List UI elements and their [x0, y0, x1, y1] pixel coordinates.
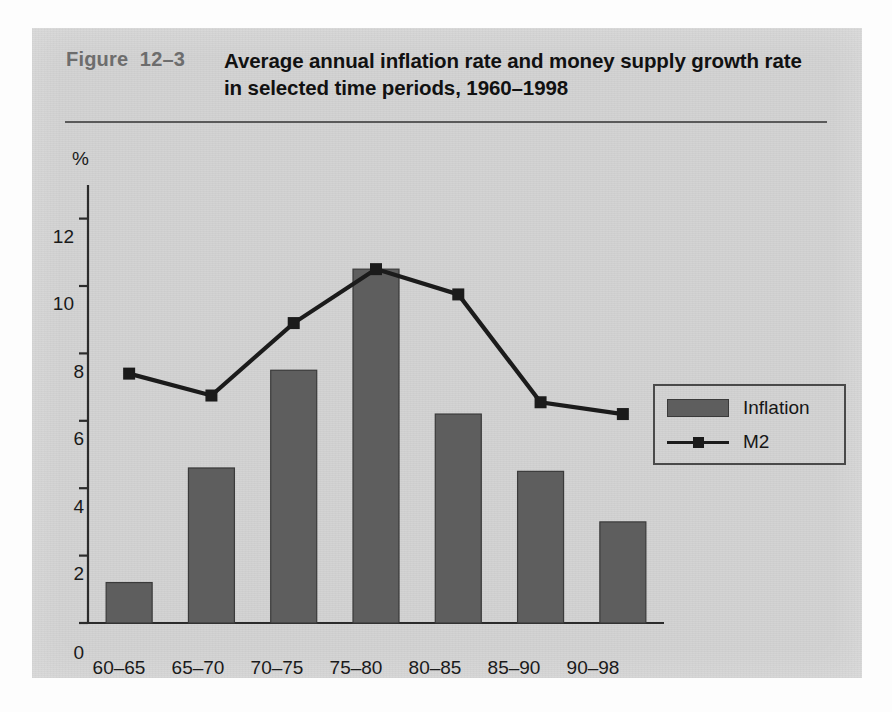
bar-inflation-75–80 [353, 269, 399, 623]
bar-series-inflation [106, 269, 646, 623]
m2-marker-60–65 [123, 368, 135, 380]
m2-marker-70–75 [288, 317, 300, 329]
y-axis-ticks [79, 219, 88, 623]
bar-inflation-70–75 [271, 370, 317, 623]
scanned-page: Figure 12–3 Average annual inflation rat… [0, 0, 892, 712]
bar-inflation-85–90 [518, 471, 564, 623]
bar-inflation-80–85 [435, 414, 481, 623]
legend-label-inflation: Inflation [743, 397, 810, 419]
bar-inflation-90–98 [600, 522, 646, 623]
bar-inflation-60–65 [106, 583, 152, 623]
figure-panel: Figure 12–3 Average annual inflation rat… [32, 28, 862, 678]
legend-label-m2: M2 [743, 431, 769, 453]
chart-plot-area: % 0 2 4 6 8 10 12 60–65 65–70 70–75 75–8… [32, 28, 862, 678]
legend-swatch-icon [667, 399, 729, 417]
legend-item-inflation[interactable]: Inflation [667, 394, 810, 422]
chart-legend: Inflation M2 [653, 384, 846, 465]
m2-marker-65–70 [205, 390, 217, 402]
page-edge-smudge [590, 682, 890, 704]
m2-marker-90–98 [617, 408, 629, 420]
chart-canvas [32, 28, 862, 678]
m2-marker-85–90 [535, 396, 547, 408]
legend-item-m2[interactable]: M2 [667, 428, 769, 456]
legend-line-icon [667, 433, 729, 451]
legend-square-marker-icon [693, 437, 704, 448]
bar-inflation-65–70 [188, 468, 234, 623]
m2-marker-75–80 [370, 263, 382, 275]
m2-marker-80–85 [452, 288, 464, 300]
